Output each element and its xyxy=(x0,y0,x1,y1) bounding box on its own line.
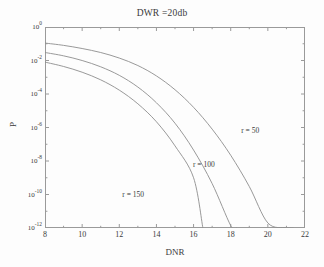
x-tick-label: 14 xyxy=(152,231,160,239)
y-tick-label: 10-12 xyxy=(28,224,42,231)
x-tick-label: 16 xyxy=(190,231,198,239)
y-tick-label: 10-6 xyxy=(31,124,43,131)
y-tick-label: 10-10 xyxy=(28,191,42,198)
series-label: r = 50 xyxy=(241,126,259,135)
chart-figure: DWR =20db 10010-210-410-610-810-1010-12 … xyxy=(0,0,324,267)
x-axis-label: DNR xyxy=(45,247,305,257)
chart-title: DWR =20db xyxy=(0,8,324,18)
y-tick-label: 10-2 xyxy=(31,57,43,64)
x-tick-label: 18 xyxy=(227,231,235,239)
x-tick-label: 10 xyxy=(78,231,86,239)
y-tick-label: 10-8 xyxy=(31,157,43,164)
y-tick-label: 10-4 xyxy=(31,90,43,97)
x-tick-label: 22 xyxy=(301,231,309,239)
x-tick-label: 12 xyxy=(115,231,123,239)
plot-axes: 10010-210-410-610-810-1010-12 8101214161… xyxy=(45,27,305,228)
x-tick-label: 8 xyxy=(43,231,47,239)
x-tick-label: 20 xyxy=(264,231,272,239)
y-axis-label: P xyxy=(8,122,18,127)
plot-canvas xyxy=(45,27,305,228)
series-label: r = 150 xyxy=(122,189,144,198)
y-tick-label: 100 xyxy=(32,23,42,30)
series-label: r = 100 xyxy=(193,159,215,168)
